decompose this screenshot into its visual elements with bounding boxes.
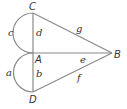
point-label-a: A <box>34 54 42 65</box>
arc-label-a: a <box>6 67 12 78</box>
point-label-d: D <box>29 94 37 105</box>
segment-label-d: d <box>36 27 42 38</box>
arc-a <box>14 53 34 92</box>
segment-label-e: e <box>80 54 86 65</box>
point-label-c: C <box>29 1 36 12</box>
geometry-diagram: C A D B c d g e a b f <box>0 0 127 109</box>
arc-label-c: c <box>8 27 14 38</box>
arc-c <box>13 13 33 53</box>
segment-f <box>33 53 112 92</box>
segment-label-b: b <box>36 68 42 79</box>
segment-label-f: f <box>76 72 83 83</box>
point-label-b: B <box>114 49 121 60</box>
segment-g <box>33 13 112 53</box>
segment-label-g: g <box>76 23 82 34</box>
